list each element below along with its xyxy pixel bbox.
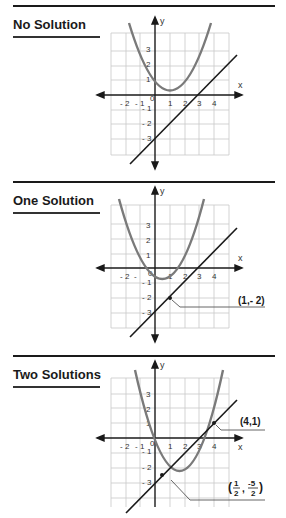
y-axis-label: y	[160, 360, 165, 370]
tick-label: 1	[168, 99, 173, 108]
tick-label: 3	[197, 272, 202, 281]
tick-label: 2	[146, 236, 151, 245]
x-tick-labels: - 2 - 1 0 1 2 3 4	[120, 94, 217, 108]
tick-label: - 1	[142, 278, 152, 287]
tick-label: 0	[150, 94, 155, 103]
intersection-label-1: (4,1)	[240, 416, 261, 427]
graph-two-solutions: x y - 2 - 1 0 1 2 3 4 3 2 1 - 1 - 2 - 3 …	[0, 350, 286, 507]
x-axis-label: x	[238, 253, 243, 263]
tick-label: - 2	[142, 293, 152, 302]
intersection-label: (1,- 2)	[238, 295, 265, 306]
graph-element	[152, 335, 158, 342]
y-axis-label: y	[160, 186, 165, 196]
tick-label: 3	[146, 390, 151, 399]
tick-label: 2	[234, 489, 239, 498]
tick-label: - 2	[142, 119, 152, 128]
graph-element	[152, 361, 158, 368]
tick-label: 1	[234, 479, 239, 488]
tick-label: 3	[197, 99, 202, 108]
linear-line	[126, 400, 237, 513]
y-axis-label: y	[160, 16, 165, 26]
panel-two-solutions: Two Solutions x y - 2 - 1 0 1 2 3	[0, 350, 286, 518]
graph-element	[235, 92, 242, 98]
intersection-point-1	[212, 421, 216, 425]
tick-label: - 2	[120, 272, 130, 281]
tick-label: -	[134, 272, 137, 281]
tick-label: - 1	[142, 447, 152, 456]
tick-label: - 3	[142, 134, 152, 143]
panel-no-solution: No Solution x y - 2 - 1 0	[0, 0, 286, 174]
panel-one-solution: One Solution x y - 2 - 0 1 2	[0, 176, 286, 350]
graph-element	[235, 265, 242, 271]
axes	[97, 17, 242, 169]
intersection-label-2: ( 1 2 , -5 2 )	[228, 479, 263, 498]
tick-label: 4	[212, 99, 217, 108]
tick-label: 2	[251, 489, 256, 498]
tick-label: (	[228, 480, 232, 494]
axes	[97, 187, 242, 342]
intersection-point-2	[160, 473, 164, 477]
tick-label: - 2	[120, 442, 130, 451]
tick-label: 3	[146, 45, 151, 54]
tick-label: 1	[168, 442, 173, 451]
graph-element	[97, 435, 104, 441]
tick-label: ,	[242, 483, 245, 494]
tick-label: )	[259, 480, 263, 494]
graph-element	[97, 92, 104, 98]
graph-element	[235, 435, 242, 441]
graph-element	[152, 162, 158, 169]
tick-label: - 2	[142, 463, 152, 472]
graph-element	[152, 187, 158, 194]
graph-element	[97, 265, 104, 271]
tick-label: - 1	[142, 104, 152, 113]
tick-label: 1	[146, 251, 151, 260]
x-axis-label: x	[238, 442, 243, 452]
tick-label: -5	[248, 479, 256, 488]
grid	[111, 205, 229, 328]
tick-label: 3	[146, 221, 151, 230]
tick-label: 4	[212, 442, 217, 451]
graph-element	[152, 17, 158, 24]
intersection-point	[168, 296, 172, 300]
x-axis-label: x	[238, 80, 243, 90]
tick-label: - 3	[142, 478, 152, 487]
graph-one-solution: x y - 2 - 0 1 2 3 4 3 2 1 - 1 - 2 - 3 (1…	[0, 176, 286, 350]
grid	[111, 33, 229, 155]
tick-label: - 2	[120, 99, 130, 108]
tick-label: 4	[212, 272, 217, 281]
graph-no-solution: x y - 2 - 1 0 1 2 3 4 3 2 1 - 1 - 2 - 3	[0, 0, 286, 174]
x-tick-labels: - 2 - 0 1 2 3 4	[120, 269, 217, 281]
